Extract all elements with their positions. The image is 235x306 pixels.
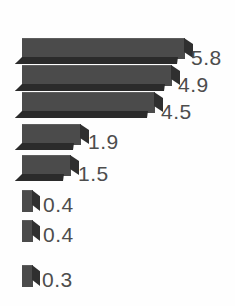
bar-underside: [15, 57, 178, 64]
bar-value-label: 0.4: [43, 194, 74, 215]
bar-face: [22, 190, 33, 212]
bar-7: [22, 220, 33, 241]
bar-chart: 5.84.94.51.91.50.40.40.3: [0, 0, 235, 306]
bar-value-label: 1.9: [88, 131, 119, 152]
bar-value-label: 1.5: [78, 163, 109, 184]
bar-5: [22, 155, 71, 175]
bar-face: [22, 65, 172, 86]
bar-6: [22, 190, 33, 211]
bar-8: [22, 265, 33, 286]
bar-face: [22, 38, 185, 59]
bar-value-label: 0.3: [42, 269, 73, 290]
bar-underside: [15, 111, 148, 118]
bar-end-cap: [32, 190, 40, 211]
bar-face: [22, 92, 155, 113]
bar-4: [22, 124, 81, 144]
bar-face: [22, 124, 81, 145]
bar-value-label: 0.4: [43, 224, 74, 245]
bar-face: [22, 265, 33, 287]
bar-end-cap: [32, 220, 40, 241]
bar-end-cap: [32, 265, 40, 286]
bar-3: [22, 92, 155, 112]
bar-value-label: 5.8: [191, 47, 222, 68]
bar-face: [22, 155, 71, 176]
bar-face: [22, 220, 33, 242]
bar-2: [22, 65, 172, 85]
bar-underside: [15, 84, 165, 91]
bar-value-label: 4.5: [161, 101, 192, 122]
bar-1: [22, 38, 185, 58]
bar-value-label: 4.9: [178, 74, 209, 95]
